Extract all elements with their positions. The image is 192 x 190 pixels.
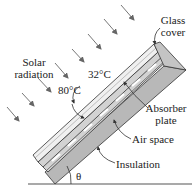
label-solar-radiation: Solar radiation xyxy=(6,56,62,80)
label-absorber-plate: Absorber plate xyxy=(140,102,192,126)
label-angle-theta: θ xyxy=(76,170,81,182)
label-air-space: Air space xyxy=(132,133,174,145)
label-temp-glass: 32°C xyxy=(88,68,111,80)
label-insulation: Insulation xyxy=(116,158,160,170)
label-glass-cover: Glass cover xyxy=(154,14,192,38)
insulation-leader xyxy=(98,147,115,163)
label-temp-absorber: 80°C xyxy=(58,84,81,96)
